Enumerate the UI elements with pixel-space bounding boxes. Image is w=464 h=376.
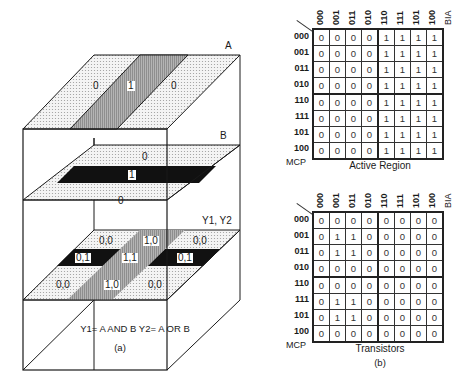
table-cell: 0: [378, 326, 395, 343]
table-cell: 1: [378, 143, 395, 160]
table-cell: 1: [330, 294, 346, 310]
table-cell: 0: [411, 326, 427, 343]
table-cell: 0: [362, 294, 379, 310]
table-cell: 1: [378, 78, 395, 95]
plane-y-value: 0,0: [56, 280, 70, 290]
row-label: 010: [287, 262, 309, 272]
table-cell: 0: [313, 78, 330, 95]
active-region-title: Active Region: [325, 160, 435, 171]
plane-y-value: 1,1: [122, 253, 138, 263]
table-cell: 0: [395, 261, 411, 278]
table-cell: 0: [427, 229, 444, 245]
plane-y-value: 0,0: [193, 236, 207, 246]
table-cell: 0: [411, 212, 427, 229]
column-label: 101: [411, 193, 421, 208]
table-cell: 0: [378, 310, 395, 326]
table-cell: 0: [330, 127, 346, 143]
table-cell: 1: [346, 245, 362, 261]
column-label: 011: [347, 193, 357, 208]
row-label: 010: [287, 79, 309, 89]
karnaugh-table: 0000000001100000011000000000000000000000…: [312, 211, 444, 343]
table-cell: 1: [427, 143, 444, 160]
table-cell: 0: [395, 245, 411, 261]
row-label: 100: [287, 326, 309, 336]
table-cell: 1: [378, 127, 395, 143]
table-cell: 0: [378, 212, 395, 229]
table-cell: 0: [346, 111, 362, 127]
table-cell: 0: [313, 277, 330, 294]
table-cell: 0: [427, 277, 444, 294]
table-row: 00001111: [313, 143, 443, 160]
column-axis-label: BIA: [443, 193, 453, 208]
table-row: 00001111: [313, 78, 443, 95]
table-cell: 1: [395, 29, 411, 46]
table-row: 00000000: [313, 326, 443, 343]
table-cell: 0: [330, 111, 346, 127]
table-cell: 0: [395, 229, 411, 245]
table-cell: 1: [330, 310, 346, 326]
row-label: 100: [287, 143, 309, 153]
table-row: 01100000: [313, 294, 443, 310]
plane-y-value: 1,0: [143, 236, 159, 246]
table-row: 01100000: [313, 310, 443, 326]
table-cell: 0: [346, 46, 362, 62]
table-cell: 0: [427, 212, 444, 229]
plane-a-value: 0: [171, 81, 177, 91]
plane-y-value: 0,0: [148, 280, 162, 290]
table-cell: 0: [313, 212, 330, 229]
table-cell: 0: [313, 294, 330, 310]
table-cell: 1: [346, 310, 362, 326]
table-cell: 0: [411, 294, 427, 310]
plane-b-label: B: [220, 131, 227, 141]
table-cell: 0: [313, 62, 330, 78]
row-label: 001: [287, 47, 309, 57]
column-label: 100: [427, 10, 437, 25]
table-cell: 1: [378, 111, 395, 127]
table-cell: 0: [330, 62, 346, 78]
table-cell: 1: [411, 94, 427, 111]
table-cell: 1: [411, 127, 427, 143]
column-label: 111: [395, 194, 405, 208]
table-cell: 1: [427, 127, 444, 143]
table-cell: 1: [411, 29, 427, 46]
table-cell: 0: [411, 229, 427, 245]
column-axis-label: BIA: [443, 10, 453, 25]
table-cell: 1: [427, 62, 444, 78]
table-cell: 0: [395, 326, 411, 343]
plane-y-value: 0,1: [75, 253, 91, 263]
table-cell: 0: [313, 245, 330, 261]
plane-a-value: 0: [93, 81, 99, 91]
row-axis-label: MCP: [286, 157, 306, 167]
table-cell: 0: [346, 127, 362, 143]
table-cell: 1: [395, 62, 411, 78]
table-cell: 0: [330, 94, 346, 111]
plane-b-value: 0: [118, 196, 124, 206]
table-row: 00001111: [313, 111, 443, 127]
table-cell: 0: [362, 29, 379, 46]
table-cell: 1: [378, 29, 395, 46]
table-cell: 1: [395, 111, 411, 127]
column-label: 111: [395, 11, 405, 25]
table-cell: 1: [411, 78, 427, 95]
table-row: 00001111: [313, 29, 443, 46]
panel-a-caption: (a): [105, 342, 135, 353]
table-cell: 0: [346, 326, 362, 343]
row-label: 000: [287, 214, 309, 224]
table-cell: 1: [378, 62, 395, 78]
table-cell: 0: [313, 111, 330, 127]
table-cell: 0: [346, 261, 362, 278]
table-cell: 0: [313, 143, 330, 160]
row-label: 011: [287, 63, 309, 73]
column-label: 000: [315, 193, 325, 208]
plane-y-label: Y1, Y2: [202, 216, 232, 226]
table-cell: 0: [362, 212, 379, 229]
table-cell: 0: [362, 261, 379, 278]
column-label: 000: [315, 10, 325, 25]
transistors-title: Transistors: [325, 343, 435, 354]
table-cell: 1: [427, 94, 444, 111]
table-cell: 0: [330, 46, 346, 62]
table-cell: 0: [362, 143, 379, 160]
row-label: 000: [287, 31, 309, 41]
column-label: 010: [363, 193, 373, 208]
table-cell: 0: [411, 310, 427, 326]
